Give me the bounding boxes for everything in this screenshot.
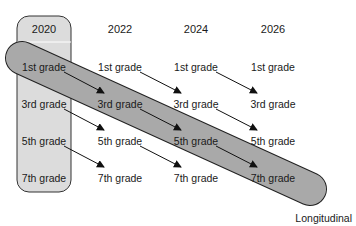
year-header-2024: 2024	[184, 23, 208, 35]
year-header-2022: 2022	[108, 23, 132, 35]
cell-2024-7th: 7th grade	[174, 172, 218, 184]
cell-2020-7th: 7th grade	[22, 172, 66, 184]
year-header-2020: 2020	[32, 23, 56, 35]
longitudinal-label: Longitudinal	[295, 212, 352, 224]
cell-2026-3rd: 3rd grade	[251, 98, 296, 110]
cell-2022-7th: 7th grade	[98, 172, 142, 184]
year-header-2026: 2026	[261, 23, 285, 35]
cell-2022-3rd: 3rd grade	[98, 98, 143, 110]
cell-2022-1st: 1st grade	[98, 61, 142, 73]
cell-2020-3rd: 3rd grade	[22, 98, 67, 110]
cell-2024-3rd: 3rd grade	[174, 98, 219, 110]
cell-2020-1st: 1st grade	[22, 61, 66, 73]
cell-2024-1st: 1st grade	[174, 61, 218, 73]
cell-2026-7th: 7th grade	[251, 172, 295, 184]
cell-2020-5th: 5th grade	[22, 135, 66, 147]
cell-2026-5th: 5th grade	[251, 135, 295, 147]
cell-2024-5th: 5th grade	[174, 135, 218, 147]
cell-2026-1st: 1st grade	[251, 61, 295, 73]
cell-2022-5th: 5th grade	[98, 135, 142, 147]
